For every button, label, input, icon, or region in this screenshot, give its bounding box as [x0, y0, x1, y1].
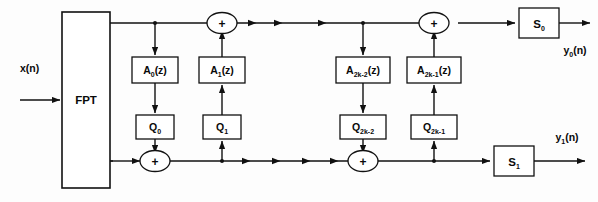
signal-flow-diagram: x(n) FPT: [0, 0, 598, 202]
a2k1-suffix: (z): [439, 64, 451, 76]
bottom-rail-arrow-a: [242, 158, 250, 164]
sum-top-right: +: [419, 13, 449, 34]
y0-suffix: (n): [573, 44, 586, 56]
fpt-block-label: FPT: [75, 94, 97, 106]
branch-q2k1-a2k1: Q2k-1 A2k-1(z): [407, 31, 461, 163]
a2k2-suffix: (z): [368, 64, 380, 76]
sum-top-left-symbol: +: [218, 17, 225, 31]
s1-output-group: S1 y1(n): [494, 131, 585, 176]
q1-subscript: 1: [224, 128, 228, 135]
bottom-rail-arrow-c: [302, 158, 310, 164]
branch-a2k2-q2k2: A2k-2(z) Q2k-2: [336, 21, 390, 153]
sum-bottom-right: +: [348, 151, 378, 172]
a0-block-label: A0(z): [143, 64, 167, 78]
sum-bottom-left: +: [140, 151, 170, 172]
s0-output-group: S0 y0(n): [519, 8, 590, 58]
sum-top-left: +: [207, 13, 237, 34]
sum-bottom-left-symbol: +: [151, 155, 158, 169]
input-group: x(n): [20, 62, 60, 100]
top-rail-arrow-a: [248, 20, 256, 26]
diagram-canvas: x(n) FPT: [0, 0, 598, 202]
s1-subscript: 1: [516, 163, 520, 170]
a1-block-label: A1(z): [210, 64, 234, 78]
a2k1-subscript: 2k-1: [425, 71, 439, 78]
sum-top-right-symbol: +: [430, 17, 437, 31]
output-label-y0: y0(n): [563, 44, 586, 58]
a2k2-subscript: 2k-2: [354, 71, 368, 78]
q2k1-subscript: 2k-1: [431, 128, 445, 135]
s0-subscript: 0: [541, 25, 545, 32]
branch-a0-q0: A0(z) Q0: [132, 21, 178, 153]
output-label-y1: y1(n): [555, 131, 578, 145]
a1-suffix: (z): [222, 64, 234, 76]
y1-suffix: (n): [565, 131, 578, 143]
top-rail-arrow-b: [274, 20, 282, 26]
fpt-block: FPT: [62, 12, 110, 188]
q0-subscript: 0: [157, 128, 161, 135]
bottom-rail-arrow-b: [272, 158, 280, 164]
top-rail-arrow-c: [318, 20, 326, 26]
q2k2-subscript: 2k-2: [360, 128, 374, 135]
bottom-rail-arrow-d: [330, 158, 338, 164]
sum-bottom-right-symbol: +: [359, 155, 366, 169]
top-rail: [110, 20, 515, 26]
input-label: x(n): [20, 62, 39, 74]
a0-suffix: (z): [155, 64, 167, 76]
branch-q1-a1: Q1 A1(z): [199, 31, 245, 163]
